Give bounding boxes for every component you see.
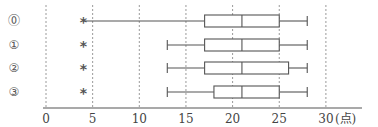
x-tick-label: 5 — [89, 112, 97, 126]
row-labels: ⓪①②③ — [8, 14, 20, 99]
asterisk-marker: * — [80, 14, 88, 30]
box-plot-row-2: * — [80, 61, 308, 77]
asterisk-marker: * — [80, 85, 88, 101]
row-label-2: ② — [9, 61, 20, 75]
x-tick-label: 25 — [272, 112, 287, 126]
row-label-3: ③ — [9, 85, 20, 99]
x-tick-label: 15 — [178, 112, 193, 126]
asterisk-marker: * — [80, 38, 88, 54]
row-label-0: ⓪ — [8, 14, 20, 28]
x-tick-label: 30 — [318, 112, 333, 126]
box-plot-row-0: * — [80, 14, 308, 30]
x-tick-label: 20 — [225, 112, 240, 126]
x-tick-label: 10 — [132, 112, 147, 126]
x-axis: 051015202530(点) — [42, 108, 362, 126]
x-tick-label: 0 — [42, 112, 50, 126]
iqr-box — [205, 62, 289, 74]
unit-label: (点) — [335, 112, 356, 126]
box-plots: **** — [80, 14, 308, 101]
iqr-box — [214, 86, 279, 98]
row-label-1: ① — [9, 38, 20, 52]
box-plot-row-3: * — [80, 85, 308, 101]
asterisk-marker: * — [80, 61, 88, 77]
box-plot-row-1: * — [80, 38, 308, 54]
box-plot-chart: 051015202530(点) **** ⓪①②③ — [0, 0, 378, 127]
